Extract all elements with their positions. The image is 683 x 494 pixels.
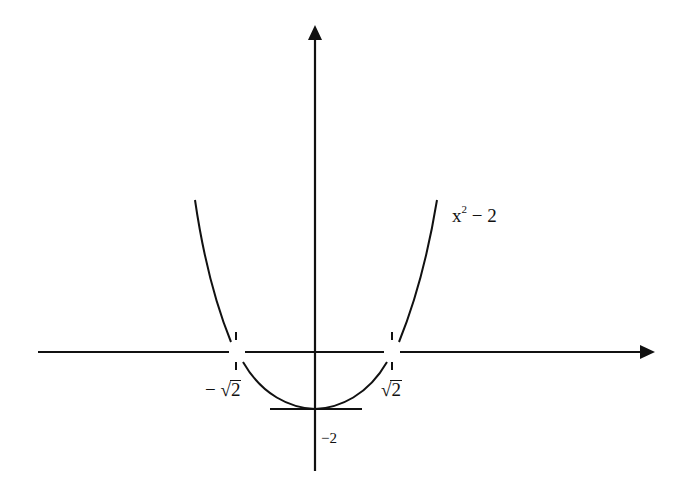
parabola-diagram [0,0,683,494]
positive-root-label: √2 [381,379,402,401]
negative-root-label: − √2 [205,379,241,401]
x-axis-arrow-icon [640,345,655,359]
vertex-y-label: −2 [321,430,337,447]
y-axis-arrow-icon [308,25,322,40]
function-label: x2 − 2 [452,203,497,227]
